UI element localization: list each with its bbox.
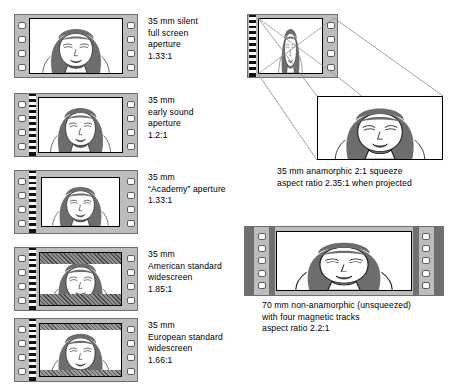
magnetic-track-outer-left [245,227,254,295]
sprocket-column-right [124,15,137,77]
magnetic-track-outer-right [434,227,443,295]
portrait-artwork [40,324,121,376]
sprocket-hole [258,257,266,264]
sprocket-column-left [255,227,269,295]
filmstrip-70mm [244,226,444,296]
sprocket-column-left [15,15,28,77]
sprocket-hole [127,354,135,361]
sprocket-column-right [124,171,137,233]
sprocket-hole [258,282,266,289]
sprocket-hole [127,129,135,136]
sprocket-hole [422,257,430,264]
sprocket-hole [422,282,430,289]
caption-silent: 35 mm silent full screen aperture 1.33:1 [148,16,243,62]
magnetic-track-inner-left [269,227,275,295]
portrait-artwork [39,98,122,152]
projected-frame-anamorphic [317,96,443,160]
portrait-artwork-unsqueezed [318,97,442,159]
sprocket-hole [327,50,335,57]
sprocket-hole [127,36,135,43]
sprocket-hole [422,233,430,240]
image-frame-american-widescreen [39,252,122,306]
sprocket-hole [127,143,135,150]
sprocket-hole [422,270,430,277]
optical-soundtrack-stripe [29,319,36,381]
sprocket-column-right [124,94,137,156]
sprocket-hole [18,269,26,276]
sprocket-hole [258,233,266,240]
sprocket-hole [127,269,135,276]
filmstrip-anamorphic-squeezed [247,14,338,78]
image-frame-european-widescreen [39,323,122,377]
sprocket-hole [18,354,26,361]
optical-soundtrack-stripe [249,15,256,77]
sprocket-hole [18,220,26,227]
sprocket-column-right [124,319,137,381]
sprocket-hole [18,50,26,57]
caption-academy: 35 mm “Academy” aperture 1.33:1 [148,172,248,207]
image-frame-academy [41,177,120,227]
sprocket-hole [422,245,430,252]
sprocket-column-left [15,319,28,381]
sprocket-hole [18,326,26,333]
sprocket-hole [18,192,26,199]
filmstrip-academy [14,170,138,234]
sprocket-hole [18,178,26,185]
matte-band-bottom [40,370,121,376]
sprocket-hole [127,340,135,347]
sprocket-hole [18,255,26,262]
caption-70mm: 70 mm non-anamorphic (unsqueezed) with f… [262,300,453,335]
sprocket-hole [127,206,135,213]
sprocket-hole [127,22,135,29]
caption-anamorphic: 35 mm anamorphic 2:1 squeeze aspect rati… [277,166,453,189]
portrait-artwork [277,232,411,290]
sprocket-hole [18,115,26,122]
sprocket-hole [18,283,26,290]
matte-band-bottom [40,294,121,305]
sprocket-column-left [15,94,28,156]
sprocket-column-right [324,15,337,77]
film-format-diagram: 35 mm silent full screen aperture 1.33:1… [0,0,453,390]
sprocket-hole [18,129,26,136]
sprocket-column-right [124,248,137,310]
sprocket-column-left [15,248,28,310]
filmstrip-silent [14,14,138,78]
optical-soundtrack-stripe [29,248,36,310]
sprocket-hole [327,64,335,71]
sprocket-hole [18,36,26,43]
sprocket-hole [18,206,26,213]
filmstrip-european-widescreen [14,318,138,382]
image-frame-silent [29,18,123,74]
optical-soundtrack-stripe [29,171,36,233]
matte-band-top [40,324,121,330]
sprocket-hole [18,101,26,108]
filmstrip-american-widescreen [14,247,138,311]
sprocket-hole [127,255,135,262]
sprocket-column-left [15,171,28,233]
image-frame-early-sound [38,97,123,153]
portrait-artwork [30,19,122,73]
sprocket-hole [127,220,135,227]
caption-early-sound: 35 mm early sound aperture 1.2:1 [148,95,243,141]
sprocket-hole [127,326,135,333]
sprocket-hole [127,192,135,199]
sprocket-hole [258,270,266,277]
sprocket-hole [18,22,26,29]
portrait-artwork [42,178,119,226]
sprocket-hole [127,368,135,375]
caption-european-widescreen: 35 mm European standard widescreen 1.66:… [148,320,248,366]
sprocket-hole [327,22,335,29]
sprocket-hole [18,340,26,347]
optical-soundtrack-stripe [29,94,36,156]
matte-band-top [40,253,121,264]
image-frame-70mm [276,231,412,291]
portrait-artwork-squeezed [259,19,322,73]
sprocket-hole [18,143,26,150]
sprocket-hole [18,368,26,375]
sprocket-hole [127,178,135,185]
sprocket-hole [18,64,26,71]
sprocket-hole [127,297,135,304]
sprocket-hole [127,101,135,108]
sprocket-hole [18,297,26,304]
image-frame-anamorphic-squeezed [258,18,323,74]
